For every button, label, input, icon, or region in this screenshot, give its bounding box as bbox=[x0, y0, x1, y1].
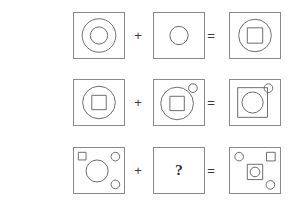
equation-row-3: + ? = bbox=[0, 146, 293, 196]
puzzle-canvas: + = + bbox=[0, 0, 293, 206]
circle-with-three-corner-marks-icon bbox=[74, 148, 124, 193]
large-circle-with-inner-square-icon bbox=[230, 13, 280, 58]
equation-row-1: + = bbox=[0, 11, 293, 61]
square-with-inner-circle-and-corner-circle-icon bbox=[230, 80, 280, 125]
question-mark-label: ? bbox=[154, 148, 204, 193]
row-2-operand-a-panel[interactable] bbox=[73, 79, 125, 126]
row-3-operand-a-panel[interactable] bbox=[73, 147, 125, 194]
large-circle-with-inner-circle-icon bbox=[74, 13, 124, 58]
row-3-equals-operator: = bbox=[199, 147, 223, 194]
row-2-plus-operator: + bbox=[126, 79, 150, 126]
row-1-result-panel[interactable] bbox=[229, 12, 281, 59]
row-1-operand-b-panel[interactable] bbox=[153, 12, 205, 59]
row-2-operand-b-panel[interactable] bbox=[153, 79, 205, 126]
row-3-unknown-panel[interactable]: ? bbox=[153, 147, 205, 194]
row-2-result-panel[interactable] bbox=[229, 79, 281, 126]
row-1-plus-operator: + bbox=[126, 12, 150, 59]
square-with-inner-circle-and-three-corner-marks-icon bbox=[230, 148, 280, 193]
row-2-equals-operator: = bbox=[199, 79, 223, 126]
row-1-operand-a-panel[interactable] bbox=[73, 12, 125, 59]
single-small-circle-icon bbox=[154, 13, 204, 58]
circle-with-inner-square-and-corner-circle-icon bbox=[154, 80, 204, 125]
row-1-equals-operator: = bbox=[199, 12, 223, 59]
circle-with-inner-square-icon bbox=[74, 80, 124, 125]
row-3-result-panel[interactable] bbox=[229, 147, 281, 194]
row-3-plus-operator: + bbox=[126, 147, 150, 194]
equation-row-2: + = bbox=[0, 78, 293, 128]
